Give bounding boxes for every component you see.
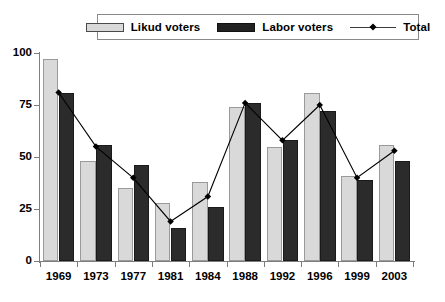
x-axis-tick	[189, 262, 190, 267]
bar-labor	[208, 207, 224, 261]
legend-item-likud-voters: Likud voters	[86, 21, 201, 33]
legend-label-likud: Likud voters	[131, 21, 201, 33]
legend-item-total: Total	[350, 21, 430, 33]
bar-labor	[134, 165, 150, 261]
line-diamond-marker-icon	[350, 23, 396, 32]
y-axis-label: 25	[0, 202, 32, 214]
y-axis-label: 0	[0, 254, 32, 266]
x-axis-tick	[227, 262, 228, 267]
bar-labor	[96, 145, 112, 261]
bar-labor	[395, 161, 411, 261]
x-axis-tick	[77, 262, 78, 267]
plot-area	[40, 53, 413, 261]
y-axis-label: 100	[0, 46, 32, 58]
y-axis-label: 50	[0, 150, 32, 162]
bar-labor	[171, 228, 187, 261]
x-axis-tick	[40, 262, 41, 267]
bar-likud	[229, 107, 245, 261]
y-axis-label: 75	[0, 98, 32, 110]
bar-likud	[192, 182, 208, 261]
bar-likud	[118, 188, 134, 261]
bar-likud	[379, 145, 395, 261]
x-axis-tick	[152, 262, 153, 267]
x-axis-tick	[115, 262, 116, 267]
bar-likud	[267, 147, 283, 261]
bar-likud	[155, 203, 171, 261]
chart-container: Likud voters Labor voters Total 02550751…	[0, 0, 445, 302]
chart-legend: Likud voters Labor voters Total	[97, 14, 419, 40]
legend-item-labor-voters: Labor voters	[217, 21, 333, 33]
legend-label-labor: Labor voters	[262, 21, 333, 33]
x-axis-tick	[264, 262, 265, 267]
bar-likud	[80, 161, 96, 261]
likud-swatch-icon	[86, 23, 124, 32]
bar-likud	[43, 59, 59, 261]
bar-labor	[357, 180, 373, 261]
bar-likud	[304, 93, 320, 261]
x-axis-tick	[338, 262, 339, 267]
x-axis-tick	[376, 262, 377, 267]
bar-labor	[245, 103, 261, 261]
x-axis-label: 2003	[369, 270, 419, 282]
bar-labor	[59, 93, 75, 261]
labor-swatch-icon	[217, 23, 255, 32]
bar-likud	[341, 176, 357, 261]
x-axis-tick	[301, 262, 302, 267]
x-axis-tick	[413, 262, 414, 267]
legend-label-total: Total	[403, 21, 430, 33]
bar-labor	[283, 140, 299, 261]
bar-labor	[320, 111, 336, 261]
